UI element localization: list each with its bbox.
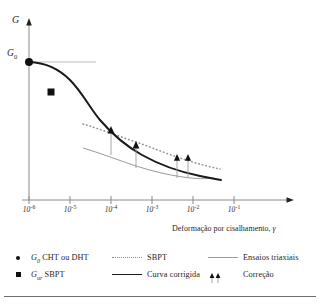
plot-svg [0,0,320,222]
legend-label-correcao: Correção [243,270,274,279]
legend-label-g0-cht-dht: G0 CHT ou DHT [31,253,89,262]
legend-label-ensaios-triaxiais: Ensaios triaxiais [243,253,298,262]
x-tick-label-4: 10-2 [187,205,200,214]
x-tick-label-1: 10-5 [64,205,77,214]
x-axis-arrowhead [287,197,295,203]
y-axis-arrowhead [26,18,32,26]
legend-row-2: Gur SBPT Curva corrigida Correção [0,266,320,283]
x-axis-title: Deformação por cisalhamento, γ [172,224,276,233]
legend-row-1: G0 CHT ou DHT SBPT Ensaios triaxiais [0,249,320,266]
circle-marker-icon [14,252,25,263]
bottom-divider [4,296,316,297]
x-tick-label-5: 10-1 [228,205,241,214]
legend-item-gur-sbpt: Gur SBPT [14,266,118,283]
marker-g0-circle [25,58,33,66]
x-tick-label-0: 10-6 [23,205,36,214]
double-arrow-triangles-icon [208,269,238,280]
legend-item-sbpt: SBPT [112,249,212,266]
legend-item-curva-corrigida: Curva corrigida [112,266,212,283]
legend-label-sbpt: SBPT [147,253,167,262]
figure-container: G G0 10-6 10-5 10-4 10-3 10-2 10-1 Defor… [0,0,320,306]
marker-triangles [108,126,192,161]
thick-solid-line-icon [112,269,142,280]
x-tick-label-2: 10-4 [105,205,118,214]
legend-label-gur-sbpt: Gur SBPT [31,270,65,279]
x-tick-label-3: 10-3 [146,205,159,214]
legend-item-ensaios-triaxiais: Ensaios triaxiais [208,249,320,266]
legend-item-g0-cht-dht: G0 CHT ou DHT [14,249,118,266]
series-sbpt [83,124,220,169]
y-axis-g0-label: G0 [7,48,17,58]
legend-label-curva-corrigida: Curva corrigida [147,270,200,279]
chart-legend: G0 CHT ou DHT SBPT Ensaios triaxiais [0,248,320,290]
marker-gur-square [48,89,55,96]
plot-area: G G0 10-6 10-5 10-4 10-3 10-2 10-1 [0,0,320,222]
thin-solid-line-icon [208,252,238,263]
y-axis-title: G [12,14,19,25]
correction-arrows [111,132,188,178]
legend-item-correcao: Correção [208,266,320,283]
square-marker-icon [14,269,25,280]
dotted-line-icon [112,252,142,263]
